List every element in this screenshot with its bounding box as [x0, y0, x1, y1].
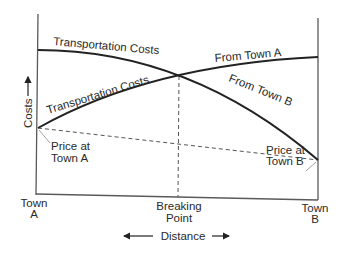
label-price-at-town-a-line2: Town A	[51, 152, 88, 164]
label-price-at-town-a-line1: Price at	[51, 140, 91, 152]
label-town-b-line2: B	[311, 213, 319, 225]
breaking-point-line	[178, 76, 179, 197]
label-costs: Costs	[22, 98, 34, 128]
label-breaking-point-line2: Point	[166, 212, 193, 224]
price-b-leader	[306, 162, 316, 171]
price-a-leader	[39, 130, 50, 143]
left-axis-town-a	[36, 14, 38, 195]
label-price-at-town-b-line2: Town B	[266, 155, 304, 167]
breaking-point-diagram: Transportation Costs Transportation Cost…	[0, 0, 347, 254]
label-transport-costs-upper: Transportation Costs	[53, 35, 160, 56]
label-transport-costs-lower: Transportation Costs	[45, 73, 150, 116]
label-town-a-line2: A	[30, 208, 38, 220]
label-breaking-point-line1: Breaking	[156, 200, 201, 212]
label-distance: Distance	[161, 230, 206, 242]
